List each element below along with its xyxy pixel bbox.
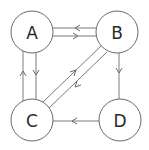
edge-b-to-d [116,53,122,99]
edge-b-to-a [53,25,96,31]
node-label: D [113,111,126,131]
node-label: B [111,23,123,43]
node-label: C [26,111,38,131]
graph-diagram: A B C D [0,0,149,150]
edge-a-to-c [33,53,39,100]
node-c: C [11,99,53,141]
node-d: D [99,99,141,141]
edge-a-to-b [53,33,96,39]
node-label: A [26,23,38,43]
edge-c-to-a [20,51,26,101]
node-b: B [96,11,138,53]
edge-d-to-c [53,118,99,124]
edge-c-to-b [42,46,101,103]
node-a: A [11,11,53,53]
edge-b-to-c [48,52,107,109]
